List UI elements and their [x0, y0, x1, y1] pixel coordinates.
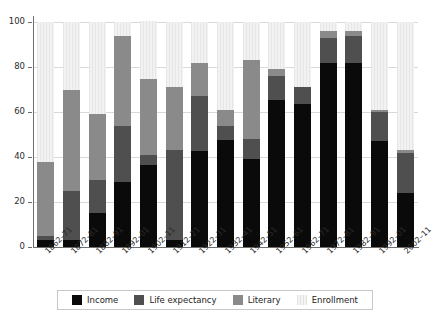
bar-segment-life-expectancy[interactable]	[371, 112, 388, 141]
bar-segment-literary[interactable]	[320, 31, 337, 38]
bar-segment-life-expectancy[interactable]	[89, 180, 106, 214]
bar-group[interactable]	[166, 22, 183, 247]
bar-group[interactable]	[268, 22, 285, 247]
legend-swatch-income	[72, 295, 82, 305]
bar-group[interactable]	[243, 22, 260, 247]
legend-item-literary: Literary	[233, 295, 281, 305]
y-tick-mark	[28, 22, 32, 23]
bar-group[interactable]	[320, 22, 337, 247]
bar-segment-literary[interactable]	[371, 110, 388, 112]
bar-segment-literary[interactable]	[140, 79, 157, 154]
bar-segment-income[interactable]	[320, 63, 337, 248]
bar-segment-life-expectancy[interactable]	[397, 153, 414, 194]
bar-segment-literary[interactable]	[217, 110, 234, 126]
bar-group[interactable]	[140, 22, 157, 247]
bar-segment-enrollment[interactable]	[397, 22, 414, 150]
y-tick-mark	[28, 67, 32, 68]
bar-segment-income[interactable]	[345, 63, 362, 248]
bar-segment-life-expectancy[interactable]	[191, 96, 208, 151]
bar-segment-literary[interactable]	[89, 114, 106, 179]
bar-segment-enrollment[interactable]	[217, 22, 234, 110]
bar-segment-literary[interactable]	[397, 150, 414, 152]
legend-swatch-literary	[233, 295, 243, 305]
bar-segment-life-expectancy[interactable]	[320, 38, 337, 63]
bar-group[interactable]	[37, 22, 54, 247]
bar-segment-literary[interactable]	[191, 63, 208, 97]
legend-swatch-life-expectancy	[134, 295, 144, 305]
bar-segment-life-expectancy[interactable]	[140, 155, 157, 165]
bar-segment-literary[interactable]	[166, 87, 183, 150]
bar-segment-literary[interactable]	[114, 36, 131, 126]
bar-segment-enrollment[interactable]	[166, 22, 183, 87]
bar-segment-enrollment[interactable]	[294, 22, 311, 87]
legend-label-enrollment: Enrollment	[312, 295, 358, 305]
legend-label-life-expectancy: Life expectancy	[149, 295, 216, 305]
legend-label-income: Income	[87, 295, 118, 305]
legend-swatch-enrollment	[297, 295, 307, 305]
y-tick-label: 100	[0, 17, 25, 26]
plot-area: 020406080100	[33, 22, 418, 247]
y-tick-label: 20	[0, 197, 25, 206]
bar-segment-life-expectancy[interactable]	[294, 87, 311, 104]
bar-segment-enrollment[interactable]	[345, 22, 362, 31]
y-tick-mark	[28, 247, 32, 248]
bar-segment-life-expectancy[interactable]	[268, 76, 285, 100]
y-tick-mark	[28, 157, 32, 158]
bar-segment-enrollment[interactable]	[320, 22, 337, 31]
bar-segment-life-expectancy[interactable]	[345, 36, 362, 63]
bar-segment-enrollment[interactable]	[89, 22, 106, 114]
bar-segment-literary[interactable]	[243, 60, 260, 139]
bar-group[interactable]	[294, 22, 311, 247]
legend-item-life-expectancy: Life expectancy	[134, 295, 216, 305]
legend-label-literary: Literary	[248, 295, 281, 305]
bar-group[interactable]	[114, 22, 131, 247]
y-tick-mark	[28, 202, 32, 203]
bar-segment-enrollment[interactable]	[191, 22, 208, 63]
chart-legend: Income Life expectancy Literary Enrollme…	[57, 290, 373, 310]
bar-segment-enrollment[interactable]	[243, 22, 260, 60]
bar-segment-literary[interactable]	[63, 90, 80, 191]
y-tick-label: 0	[0, 242, 25, 251]
bar-segment-literary[interactable]	[37, 162, 54, 236]
bar-group[interactable]	[217, 22, 234, 247]
bar-segment-life-expectancy[interactable]	[243, 139, 260, 159]
bar-segment-enrollment[interactable]	[114, 22, 131, 36]
bar-group[interactable]	[63, 22, 80, 247]
bar-segment-enrollment[interactable]	[63, 22, 80, 90]
bar-segment-enrollment[interactable]	[371, 22, 388, 110]
bar-group[interactable]	[371, 22, 388, 247]
bar-segment-enrollment[interactable]	[37, 22, 54, 162]
bar-segment-literary[interactable]	[345, 31, 362, 36]
legend-item-enrollment: Enrollment	[297, 295, 358, 305]
y-tick-mark	[28, 112, 32, 113]
bar-group[interactable]	[89, 22, 106, 247]
bar-group[interactable]	[345, 22, 362, 247]
y-axis-line	[33, 16, 34, 248]
y-tick-label: 40	[0, 152, 25, 161]
bar-segment-enrollment[interactable]	[268, 22, 285, 69]
bar-segment-literary[interactable]	[268, 69, 285, 76]
bar-group[interactable]	[191, 22, 208, 247]
bar-segment-life-expectancy[interactable]	[114, 126, 131, 182]
bar-group[interactable]	[397, 22, 414, 247]
bar-segment-enrollment[interactable]	[140, 21, 157, 80]
legend-item-income: Income	[72, 295, 118, 305]
bar-segment-life-expectancy[interactable]	[217, 126, 234, 141]
y-tick-label: 80	[0, 62, 25, 71]
y-tick-label: 60	[0, 107, 25, 116]
